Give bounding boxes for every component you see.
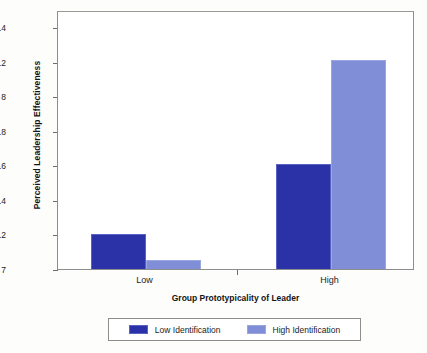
y-axis-tick-label: 7.4 — [0, 196, 6, 206]
x-axis-category-label: High — [270, 275, 390, 285]
chart-legend: Low IdentificationHigh Identification — [108, 318, 361, 341]
y-axis-tick-mark — [53, 270, 58, 271]
y-axis-title: Perceived Leadership Effectiveness — [32, 10, 42, 260]
light-blue-swatch — [247, 325, 266, 334]
x-axis-tick-mark — [237, 270, 238, 275]
bar-chart-figure: Perceived Leadership Effectiveness 77.27… — [0, 0, 427, 353]
y-axis-tick-label: 7.6 — [0, 161, 6, 171]
y-axis-tick-label: 7 — [0, 265, 6, 275]
y-axis-tick-label: 8.4 — [0, 23, 6, 33]
x-axis-category-label: Low — [85, 275, 205, 285]
y-axis-tick-label: 7.8 — [0, 127, 6, 137]
legend-item-label: Low Identification — [155, 325, 221, 335]
y-axis-tick-label: 8 — [0, 92, 6, 102]
dark-blue-swatch — [129, 325, 148, 334]
y-axis-tick-label: 7.2 — [0, 230, 6, 240]
x-axis-title: Group Prototypicality of Leader — [57, 293, 414, 303]
legend-item: Low Identification — [129, 325, 221, 335]
y-axis-tick-label: 8.2 — [0, 58, 6, 68]
bar-low-high-identification — [146, 260, 201, 269]
bar-low-low-identification — [91, 234, 146, 269]
plot-area — [57, 11, 414, 270]
plot-inner — [58, 12, 413, 269]
legend-item: High Identification — [247, 325, 341, 335]
legend-item-label: High Identification — [273, 325, 341, 335]
bar-high-low-identification — [276, 164, 331, 269]
bar-high-high-identification — [331, 60, 386, 269]
